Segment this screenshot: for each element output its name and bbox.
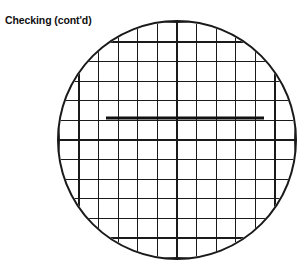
figure-root: Checking (cont'd) (0, 0, 305, 276)
reticle-diagram (0, 0, 305, 276)
grid-lines-group (58, 21, 296, 259)
